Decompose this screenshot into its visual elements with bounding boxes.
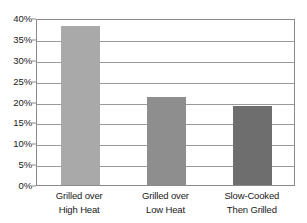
x-tick-label-line2: High Heat bbox=[36, 203, 122, 217]
y-tick-label: 30% bbox=[0, 56, 32, 66]
bar bbox=[61, 26, 100, 185]
y-tick-label: 0% bbox=[0, 181, 32, 191]
y-axis: 40%35%30%25%20%15%10%5%0% bbox=[0, 19, 32, 186]
x-tick-label: Slow-CookedThen Grilled bbox=[209, 189, 295, 216]
y-tick-label: 10% bbox=[0, 140, 32, 150]
y-tick-label: 35% bbox=[0, 35, 32, 45]
x-tick-label: Grilled overLow Heat bbox=[122, 189, 208, 216]
bar-chart: 40%35%30%25%20%15%10%5%0% Grilled overHi… bbox=[0, 0, 307, 223]
y-tick-label: 5% bbox=[0, 160, 32, 170]
x-axis: Grilled overHigh HeatGrilled overLow Hea… bbox=[36, 189, 295, 223]
x-tick-label-line1: Grilled over bbox=[142, 190, 189, 201]
y-tick-label: 40% bbox=[0, 14, 32, 24]
y-tick-label: 25% bbox=[0, 77, 32, 87]
bar-series bbox=[37, 20, 294, 185]
plot-area bbox=[36, 19, 295, 186]
x-tick-label-line2: Then Grilled bbox=[209, 203, 295, 217]
x-tick-label-line2: Low Heat bbox=[122, 203, 208, 217]
x-tick-label: Grilled overHigh Heat bbox=[36, 189, 122, 216]
bar bbox=[147, 97, 186, 185]
x-tick-label-line1: Grilled over bbox=[56, 190, 103, 201]
y-tick-label: 20% bbox=[0, 98, 32, 108]
y-tick-label: 15% bbox=[0, 119, 32, 129]
x-tick-label-line1: Slow-Cooked bbox=[224, 190, 279, 201]
bar bbox=[233, 106, 272, 185]
